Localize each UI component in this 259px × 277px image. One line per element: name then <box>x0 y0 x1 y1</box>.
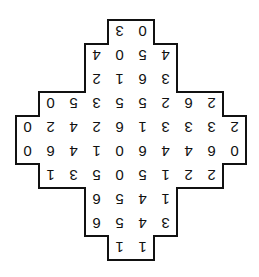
grid-cell[interactable]: 6 <box>85 212 108 236</box>
grid-cell[interactable]: 4 <box>154 140 177 164</box>
grid-cell[interactable]: 6 <box>39 140 62 164</box>
puzzle-board: 3040542163053552620242613332064106446013… <box>0 0 259 277</box>
grid-cell[interactable]: 3 <box>154 212 177 236</box>
grid-cell[interactable]: 5 <box>108 92 131 116</box>
grid-cell[interactable]: 3 <box>154 68 177 92</box>
grid-cell[interactable]: 1 <box>39 164 62 188</box>
grid-cell[interactable]: 0 <box>223 140 246 164</box>
grid-cell[interactable]: 0 <box>39 92 62 116</box>
grid-cell[interactable]: 6 <box>131 140 154 164</box>
grid-cell[interactable]: 2 <box>39 116 62 140</box>
grid-cell[interactable]: 2 <box>223 116 246 140</box>
grid-cell[interactable]: 1 <box>131 116 154 140</box>
grid-cell[interactable]: 6 <box>131 68 154 92</box>
grid-cell[interactable]: 1 <box>154 164 177 188</box>
grid-cell[interactable]: 3 <box>85 92 108 116</box>
grid-cell[interactable]: 3 <box>154 116 177 140</box>
grid-cell[interactable]: 4 <box>131 212 154 236</box>
grid-cell[interactable]: 2 <box>85 68 108 92</box>
grid-cell[interactable]: 2 <box>200 164 223 188</box>
grid-cell[interactable]: 0 <box>16 140 39 164</box>
grid-cell[interactable]: 2 <box>154 92 177 116</box>
grid-cell[interactable]: 6 <box>177 92 200 116</box>
grid-cell[interactable]: 6 <box>85 188 108 212</box>
grid-cell[interactable]: 1 <box>154 188 177 212</box>
grid-cell[interactable]: 2 <box>177 164 200 188</box>
grid-cell[interactable]: 5 <box>131 92 154 116</box>
grid-cell[interactable]: 5 <box>108 212 131 236</box>
grid-cell[interactable]: 4 <box>62 116 85 140</box>
grid-cell[interactable]: 5 <box>131 164 154 188</box>
grid-cell[interactable]: 1 <box>108 68 131 92</box>
grid-cell[interactable]: 0 <box>16 116 39 140</box>
grid-cell[interactable]: 3 <box>62 164 85 188</box>
grid-cell[interactable]: 4 <box>131 188 154 212</box>
grid-cell[interactable]: 0 <box>108 44 131 68</box>
grid-cell[interactable]: 5 <box>131 44 154 68</box>
grid-cell[interactable]: 1 <box>85 140 108 164</box>
grid-cell[interactable]: 4 <box>85 44 108 68</box>
grid-cell[interactable]: 5 <box>62 92 85 116</box>
grid-cell[interactable]: 6 <box>200 140 223 164</box>
grid-cell[interactable]: 2 <box>200 92 223 116</box>
grid-cell[interactable]: 0 <box>108 140 131 164</box>
grid-cell[interactable]: 3 <box>108 20 131 44</box>
grid-cell[interactable]: 1 <box>131 236 154 260</box>
grid-cell[interactable]: 4 <box>177 140 200 164</box>
grid-cell[interactable]: 3 <box>177 116 200 140</box>
grid-cell[interactable]: 5 <box>108 188 131 212</box>
grid-cell[interactable]: 5 <box>85 164 108 188</box>
grid-cell[interactable]: 1 <box>108 236 131 260</box>
grid-cell[interactable]: 3 <box>200 116 223 140</box>
grid-cell[interactable]: 0 <box>108 164 131 188</box>
grid-cell[interactable]: 4 <box>62 140 85 164</box>
grid-cell[interactable]: 0 <box>131 20 154 44</box>
grid-cell[interactable]: 4 <box>154 44 177 68</box>
grid-cell[interactable]: 2 <box>85 116 108 140</box>
grid-cell[interactable]: 6 <box>108 116 131 140</box>
